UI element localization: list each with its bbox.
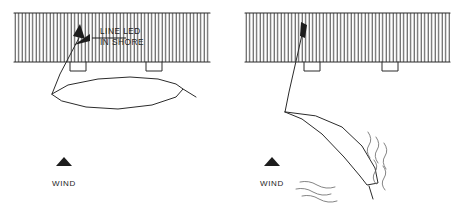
wind-arrow-icon-right: [264, 157, 280, 166]
piling-right-1: [304, 62, 320, 71]
piling-right-2: [382, 62, 398, 71]
panel-left: LINE LED IN SHORE WIND: [14, 13, 210, 188]
tiller-left: [183, 89, 196, 97]
annotation-label-line-2: IN SHORE: [100, 38, 144, 47]
diagram-canvas: LINE LED IN SHORE WIND: [0, 0, 460, 218]
wind-label-right: WIND: [260, 179, 284, 188]
piling-left-2: [146, 62, 162, 71]
wind-label-left: WIND: [52, 179, 76, 188]
boat-right: [285, 112, 378, 199]
docking-diagram: LINE LED IN SHORE WIND: [0, 0, 460, 218]
wave-line: [375, 137, 379, 163]
wave-line: [300, 181, 335, 188]
wave-line: [367, 132, 371, 158]
wave-line: [382, 166, 386, 190]
wind-indicator-left: WIND: [52, 157, 76, 188]
water-motion-lines-right: [367, 132, 387, 190]
water-motion-lines-stern: [296, 181, 337, 202]
hull-outline-left: [52, 77, 183, 109]
wave-line: [296, 188, 331, 195]
hull-outline-right: [285, 112, 378, 185]
piling-left-1: [70, 62, 86, 71]
wind-indicator-right: WIND: [260, 157, 284, 188]
wave-line: [302, 195, 337, 202]
tiller-right: [369, 186, 373, 199]
boat-left: [52, 77, 196, 109]
dock-hatching-right: [245, 13, 450, 62]
dock-right: [245, 13, 450, 71]
panel-right: WIND: [245, 13, 450, 202]
annotation-label-line-1: LINE LED: [100, 27, 141, 36]
wind-arrow-icon-left: [56, 157, 72, 166]
wave-line: [383, 143, 387, 169]
